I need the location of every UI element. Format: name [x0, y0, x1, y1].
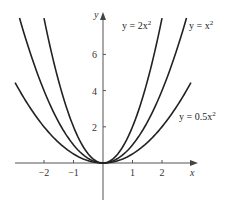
x-tick-label: 1 [130, 167, 135, 178]
y-axis: y [93, 9, 106, 200]
label-2x2: y = 2x2 [122, 19, 152, 31]
x-tick-label: 2 [160, 167, 165, 178]
y-tick-label: 2 [92, 122, 97, 133]
label-0-5x2: y = 0.5x2 [179, 110, 216, 122]
label-x2: y = x2 [189, 19, 214, 31]
chart: x y −2−112246 y = 2x2 y = x2 y = 0.5x2 [0, 0, 230, 211]
x-axis-label: x [189, 167, 195, 178]
y-axis-arrow-icon [100, 12, 106, 20]
x-axis-arrow-icon [190, 160, 198, 166]
x-tick-label: −1 [68, 167, 79, 178]
y-tick-label: 6 [92, 49, 97, 60]
x-tick-label: −2 [39, 167, 50, 178]
y-tick-label: 4 [92, 86, 97, 97]
y-axis-label: y [93, 9, 99, 20]
tick-marks: −2−112246 [39, 49, 165, 178]
